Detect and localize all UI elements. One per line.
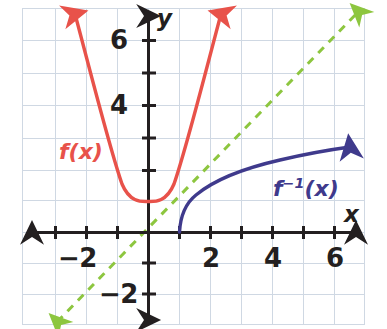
x-tick-label-neg2: −2 xyxy=(58,245,97,271)
inverse-label-exponent: −1 xyxy=(283,175,305,191)
x-tick-label-4: 4 xyxy=(264,245,282,271)
x-tick-label-6: 6 xyxy=(326,245,344,271)
y-axis xyxy=(142,16,156,320)
x-axis xyxy=(32,226,356,239)
x-tick-label-2: 2 xyxy=(202,245,220,271)
y-tick-label-4: 4 xyxy=(110,92,128,118)
function-curve-label: f(x) xyxy=(59,141,103,163)
inverse-label-base: f xyxy=(273,176,283,201)
coordinate-plane xyxy=(0,0,387,329)
inverse-label-arg: (x) xyxy=(305,176,339,201)
graph-figure: 6 4 −2 −2 2 4 6 y x f(x) f−1(x) xyxy=(0,0,387,329)
y-tick-label-6: 6 xyxy=(110,27,128,53)
y-axis-name: y xyxy=(157,7,172,30)
y-tick-label-neg2: −2 xyxy=(99,281,138,307)
inverse-curve-label: f−1(x) xyxy=(273,176,339,200)
x-axis-name: x xyxy=(344,203,359,226)
grid-lines xyxy=(22,8,365,325)
